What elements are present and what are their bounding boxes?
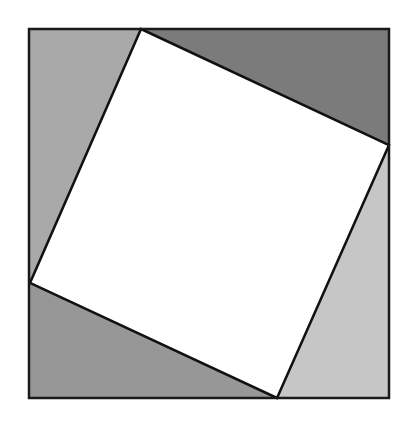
pythagorean-diagram [0,0,409,434]
diagram-canvas [0,0,409,434]
